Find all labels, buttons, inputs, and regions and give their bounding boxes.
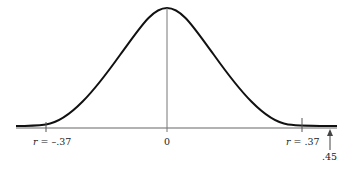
arrow-value-label: .45 [322, 151, 337, 162]
right-r-label: r = .37 [286, 136, 320, 147]
sampling-distribution-diagram: r = –.37 0 r = .37 .45 [0, 0, 347, 171]
normal-curve [16, 8, 337, 126]
arrow-up-icon [327, 129, 333, 136]
center-label: 0 [164, 136, 170, 147]
left-r-label: r = –.37 [33, 136, 71, 147]
